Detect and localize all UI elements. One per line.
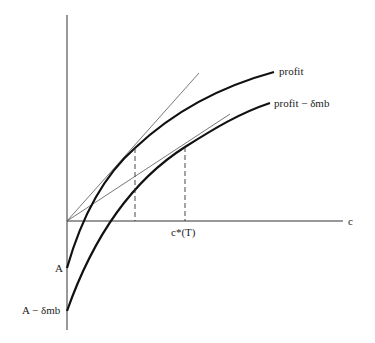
diagram-canvas: c profit profit − δmb c*(T) A A − δmb [0,0,375,343]
curve-profit [67,72,274,268]
intercept-a-minus-delta-mb-label: A − δmb [22,304,61,316]
curve-profit-minus-delta-mb-label: profit − δmb [274,97,330,109]
intercept-a-label: A [55,262,63,274]
c-star-label: c*(T) [171,226,196,239]
curve-profit-minus-delta-mb [67,103,270,311]
curve-profit-label: profit [279,65,303,77]
x-axis-label: c [348,215,353,227]
